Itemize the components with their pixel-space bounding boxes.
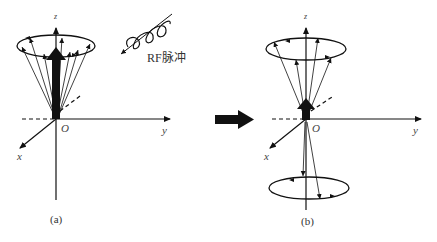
origin-label-b: O: [312, 122, 320, 134]
panel-b: [266, 28, 421, 210]
rf-pulse-label: RF脉冲: [147, 48, 186, 66]
x-axis-b: [270, 119, 306, 148]
net-magnetization-arrow-a: [46, 47, 66, 119]
x-axis-label-b: x: [264, 150, 269, 162]
neg-x-axis-a: [60, 96, 80, 111]
y-axis-label-a: y: [162, 124, 167, 136]
z-axis-label-a: z: [54, 12, 57, 21]
z-axis-label-b: z: [304, 12, 307, 21]
x-axis-label-a: x: [17, 150, 22, 162]
panel-label-a: (a): [50, 213, 62, 225]
precession-ellipse-lower-b: [269, 177, 349, 199]
net-magnetization-arrow-b: [297, 98, 315, 120]
y-axis-label-b: y: [413, 124, 418, 136]
diagram-canvas: [0, 0, 437, 242]
origin-label-a: O: [61, 122, 69, 134]
panel-label-b: (b): [301, 215, 314, 227]
magnetization-diagram: z O y x (a) RF脉冲 z O y x (b): [0, 0, 437, 242]
transition-arrow-icon: [215, 110, 254, 129]
x-axis-a: [20, 119, 56, 148]
